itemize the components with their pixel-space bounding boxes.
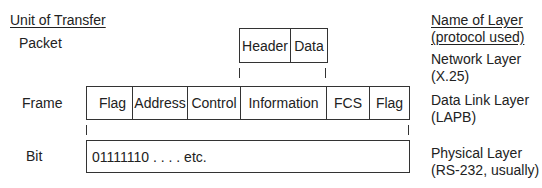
bit-box: 01111110 . . . . etc.: [86, 140, 410, 173]
frame-field-control: Control: [187, 87, 240, 119]
network-layer-name: Network Layer: [431, 51, 521, 68]
frame-box: Flag Address Control Information FCS Fla…: [86, 86, 410, 120]
packet-field-header: Header: [240, 29, 290, 62]
packet-bracket-left: [239, 68, 240, 78]
bit-stream: 01111110 . . . . etc.: [92, 141, 409, 172]
frame-field-address: Address: [132, 87, 187, 119]
datalink-layer-name: Data Link Layer: [431, 92, 529, 109]
unit-of-transfer-header: Unit of Transfer: [10, 12, 106, 28]
unit-label-packet: Packet: [19, 35, 62, 51]
packet-box: Header Data: [239, 28, 328, 63]
layer-header-line2: (protocol used): [431, 29, 524, 46]
frame-bracket-right: [408, 125, 409, 135]
frame-field-information: Information: [240, 87, 326, 119]
packet-field-data: Data: [290, 29, 327, 62]
datalink-layer-protocol: (LAPB): [431, 109, 476, 126]
unit-label-bit: Bit: [26, 148, 42, 164]
frame-field-flag-end: Flag: [369, 87, 409, 119]
network-layer-protocol: (X.25): [431, 68, 469, 85]
physical-layer-name: Physical Layer: [431, 145, 522, 162]
physical-layer-protocol: (RS-232, usually): [431, 162, 539, 179]
frame-bracket-left: [86, 125, 87, 135]
frame-field-fcs: FCS: [326, 87, 369, 119]
unit-label-frame: Frame: [22, 95, 62, 111]
frame-field-flag-start: Flag: [87, 87, 132, 119]
packet-bracket-right: [325, 68, 326, 78]
layer-header-line1: Name of Layer: [431, 12, 523, 29]
